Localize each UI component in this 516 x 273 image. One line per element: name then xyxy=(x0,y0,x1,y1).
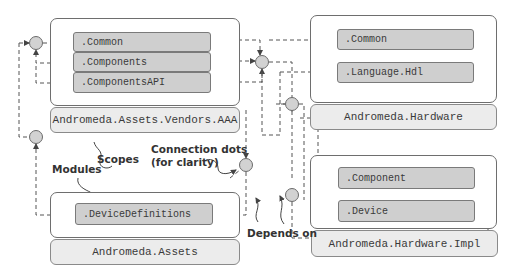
scope-hardware-impl-component[interactable]: .Component xyxy=(338,167,475,189)
scope-vendors-componentsapi[interactable]: .ComponentsAPI xyxy=(73,72,211,93)
scope-label: .Common xyxy=(81,37,123,48)
scope-label: .Component xyxy=(346,173,406,184)
module-vendors-aaa-label: Andromeda.Assets.Vendors.AAA xyxy=(50,107,240,133)
annotation-connection-dots-line1: Connection dots xyxy=(151,143,247,155)
connection-dot-vendors xyxy=(29,36,43,50)
scope-vendors-common[interactable]: .Common xyxy=(73,32,211,52)
scope-label: .Device xyxy=(346,206,388,217)
annotation-modules: Modules xyxy=(52,163,102,175)
scope-label: .ComponentsAPI xyxy=(81,77,165,88)
module-hardware-label: Andromeda.Hardware xyxy=(310,104,497,130)
scope-label: .Common xyxy=(345,34,387,45)
annotation-scopes: Scopes xyxy=(97,153,139,165)
module-name: Andromeda.Hardware xyxy=(344,111,463,123)
annotation-connection-dots-line2: (for clarity) xyxy=(151,156,219,168)
scope-hardware-common[interactable]: .Common xyxy=(337,29,474,50)
connection-dot-hardware-hdl xyxy=(285,97,299,111)
scope-vendors-components[interactable]: .Components xyxy=(73,52,211,72)
module-name: Andromeda.Assets.Vendors.AAA xyxy=(53,114,238,126)
module-name: Andromeda.Assets xyxy=(92,246,198,258)
scope-hardware-impl-device[interactable]: .Device xyxy=(338,200,475,222)
annotation-depends-on: Depends on xyxy=(247,227,317,239)
scope-label: .Components xyxy=(81,57,147,68)
module-assets-label: Andromeda.Assets xyxy=(50,239,240,265)
scope-label: .Language.Hdl xyxy=(345,67,423,78)
connection-dot-hardware-common xyxy=(255,55,269,69)
scope-label: .DeviceDefinitions xyxy=(83,209,191,220)
scope-hardware-language-hdl[interactable]: .Language.Hdl xyxy=(337,62,474,83)
scope-assets-devicedefinitions[interactable]: .DeviceDefinitions xyxy=(75,203,213,225)
connection-dot-impl-component xyxy=(285,188,299,202)
module-dependency-diagram: .Common .Components .ComponentsAPI Andro… xyxy=(0,0,516,273)
module-name: Andromeda.Hardware.Impl xyxy=(329,238,481,250)
connection-dot-assets xyxy=(29,130,43,144)
connection-dot-impl-device xyxy=(239,158,253,172)
module-hardware-impl-label: Andromeda.Hardware.Impl xyxy=(311,230,498,257)
